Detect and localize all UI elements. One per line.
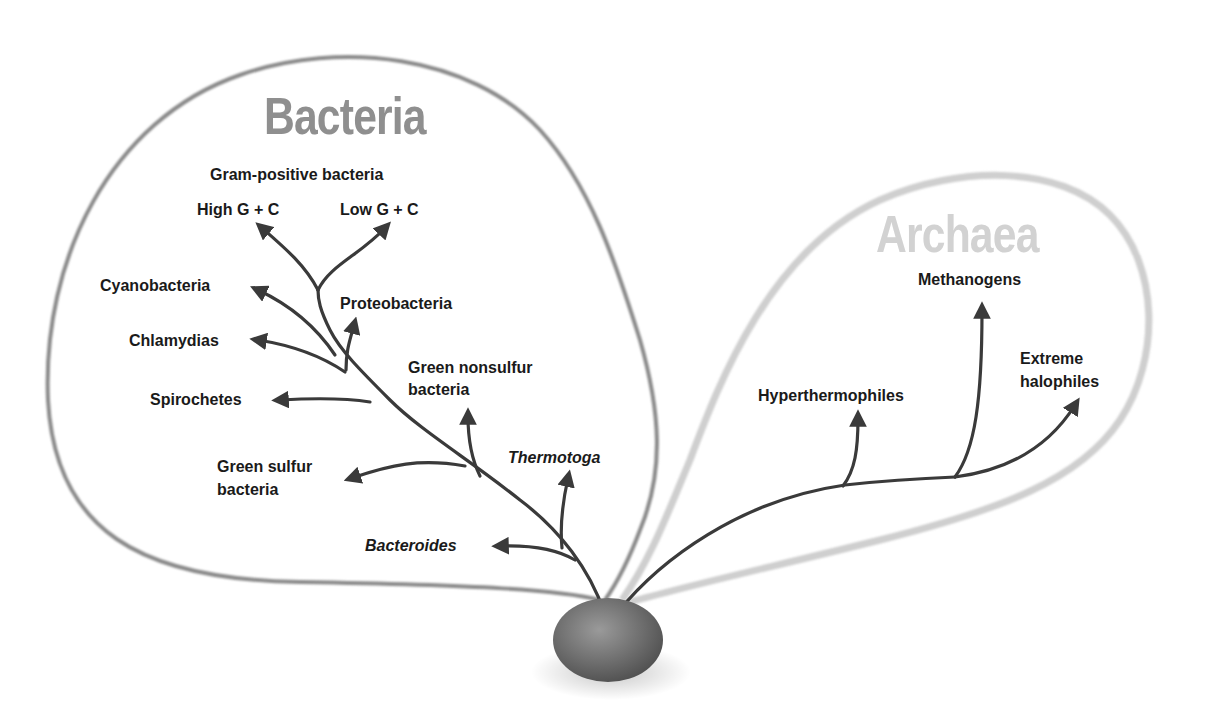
- label-green-nonsulfur-line2: bacteria: [408, 380, 469, 400]
- label-extreme-halophiles-line1: Extreme: [1020, 349, 1083, 369]
- archaea-domain-title: Archaea: [876, 206, 1039, 262]
- label-hyperthermophiles: Hyperthermophiles: [758, 386, 904, 406]
- label-spirochetes: Spirochetes: [150, 390, 242, 410]
- label-low-gc: Low G + C: [340, 200, 419, 220]
- label-bacteroides: Bacteroides: [365, 536, 457, 556]
- bacteria-domain-title: Bacteria: [264, 88, 426, 144]
- phylogenetic-tree-diagram: Bacteria Archaea Gram-positive bacteria …: [0, 0, 1212, 721]
- label-thermotoga: Thermotoga: [508, 448, 600, 468]
- label-green-sulfur-line1: Green sulfur: [217, 457, 312, 477]
- label-cyanobacteria: Cyanobacteria: [100, 276, 210, 296]
- label-extreme-halophiles-line2: halophiles: [1020, 372, 1099, 392]
- root-ancestor-node-icon: [553, 598, 663, 682]
- label-gram-positive: Gram-positive bacteria: [210, 165, 383, 185]
- label-methanogens: Methanogens: [918, 270, 1021, 290]
- label-green-nonsulfur-line1: Green nonsulfur: [408, 358, 532, 378]
- label-green-sulfur-line2: bacteria: [217, 480, 278, 500]
- label-proteobacteria: Proteobacteria: [340, 294, 452, 314]
- label-chlamydias: Chlamydias: [129, 331, 219, 351]
- label-high-gc: High G + C: [197, 200, 279, 220]
